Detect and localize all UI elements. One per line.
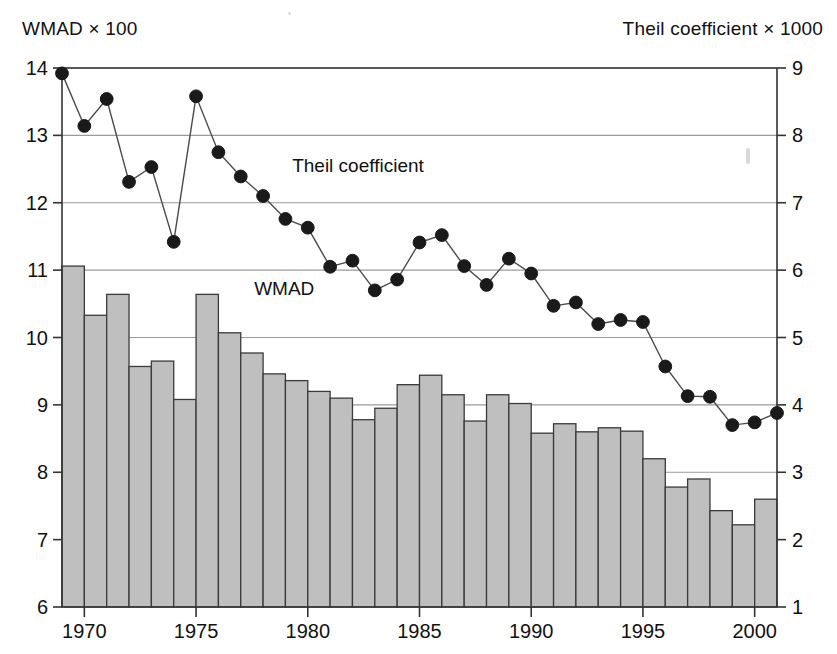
- bar: [129, 366, 151, 607]
- data-point: [123, 175, 136, 188]
- bar: [487, 395, 509, 607]
- y-tick-label: 13: [26, 125, 48, 145]
- y2-tick-label: 6: [792, 260, 803, 280]
- series-label-theil: Theil coefficient: [292, 155, 424, 177]
- x-tick-label: 1980: [268, 621, 348, 641]
- data-point: [234, 170, 247, 183]
- y-tick-label: 11: [27, 260, 48, 280]
- bar: [531, 433, 553, 607]
- y-tick-label: 10: [26, 328, 48, 348]
- y-tick-label: 6: [37, 597, 48, 617]
- data-point: [391, 273, 404, 286]
- bar: [241, 353, 263, 607]
- bar: [397, 385, 419, 607]
- series-label-wmad: WMAD: [254, 278, 314, 300]
- bar: [554, 424, 576, 607]
- data-point: [435, 229, 448, 242]
- data-point: [190, 90, 203, 103]
- bar: [710, 511, 732, 607]
- bar: [375, 408, 397, 607]
- x-tick-label: 1995: [603, 621, 683, 641]
- data-point: [301, 221, 314, 234]
- bar: [107, 294, 129, 607]
- y2-tick-label: 4: [792, 395, 803, 415]
- bar: [598, 428, 620, 607]
- bar: [732, 525, 754, 607]
- scan-speck: [746, 148, 750, 164]
- chart-figure: WMAD × 100 Theil coefficient × 1000 6789…: [0, 0, 837, 654]
- x-tick-label: 1970: [44, 621, 124, 641]
- bar: [509, 404, 531, 607]
- data-point: [100, 93, 113, 106]
- data-point: [502, 252, 515, 265]
- data-point: [525, 267, 538, 280]
- data-point: [346, 254, 359, 267]
- data-point: [78, 120, 91, 133]
- bar: [420, 375, 442, 607]
- bar: [755, 499, 777, 607]
- data-point: [145, 161, 158, 174]
- data-point: [726, 419, 739, 432]
- data-point: [547, 299, 560, 312]
- scan-speck: [288, 12, 291, 15]
- bar: [665, 487, 687, 607]
- y-tick-label: 9: [37, 395, 48, 415]
- bar: [285, 381, 307, 607]
- data-point: [257, 190, 270, 203]
- data-point: [324, 260, 337, 273]
- data-point: [704, 390, 717, 403]
- bar: [308, 391, 330, 607]
- chart-plot-area: [0, 0, 837, 654]
- x-tick-label: 2000: [715, 621, 795, 641]
- bar: [688, 479, 710, 607]
- bar: [84, 315, 106, 607]
- y2-tick-label: 1: [792, 597, 803, 617]
- data-point: [279, 213, 292, 226]
- data-point: [592, 318, 605, 331]
- bar: [464, 421, 486, 607]
- data-point: [167, 235, 180, 248]
- bar: [174, 399, 196, 607]
- y2-tick-label: 2: [792, 530, 803, 550]
- data-point: [458, 260, 471, 273]
- data-point: [637, 316, 650, 329]
- bar: [196, 294, 218, 607]
- bar: [442, 395, 464, 607]
- bar: [352, 420, 374, 607]
- bar: [576, 432, 598, 607]
- data-point: [570, 296, 583, 309]
- bar: [621, 431, 643, 607]
- bar: [263, 374, 285, 607]
- bar: [643, 459, 665, 607]
- data-point: [212, 146, 225, 159]
- y2-tick-label: 5: [792, 328, 803, 348]
- y-tick-label: 14: [26, 58, 48, 78]
- x-tick-label: 1975: [156, 621, 236, 641]
- y2-tick-label: 3: [792, 462, 803, 482]
- bar: [151, 361, 173, 607]
- bar: [62, 266, 84, 607]
- data-point: [771, 407, 784, 420]
- data-point: [480, 279, 493, 292]
- data-point: [681, 390, 694, 403]
- y2-tick-label: 8: [792, 125, 803, 145]
- y-tick-label: 7: [37, 530, 48, 550]
- bar: [218, 333, 240, 607]
- y2-tick-label: 9: [792, 58, 803, 78]
- data-point: [614, 314, 627, 327]
- x-tick-label: 1985: [380, 621, 460, 641]
- data-point: [659, 360, 672, 373]
- y-tick-label: 12: [26, 193, 48, 213]
- y-tick-label: 8: [37, 462, 48, 482]
- y2-tick-label: 7: [792, 193, 803, 213]
- data-point: [368, 284, 381, 297]
- bar: [330, 398, 352, 607]
- data-point: [748, 416, 761, 429]
- data-point: [56, 67, 69, 80]
- bar-series-wmad: [62, 266, 777, 607]
- data-point: [413, 236, 426, 249]
- x-tick-label: 1990: [491, 621, 571, 641]
